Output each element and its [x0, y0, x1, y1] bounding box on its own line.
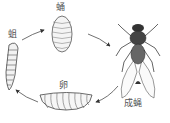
- arrow-eggs-to-larva: [16, 90, 38, 102]
- life-cycle-diagram: [0, 0, 170, 123]
- arrow-pupa-to-adult: [88, 34, 110, 46]
- arrow-larva-to-pupa: [22, 30, 44, 40]
- adult-fly-illustration: [116, 24, 160, 98]
- larva-illustration: [6, 43, 18, 90]
- arrow-adult-to-eggs: [96, 86, 118, 102]
- label-adult: 成蝇: [124, 99, 142, 108]
- label-egg: 卵: [59, 81, 68, 90]
- pupa-illustration: [52, 16, 72, 52]
- eggs-illustration: [40, 93, 92, 111]
- label-larva: 蛆: [8, 30, 17, 39]
- label-pupa: 蛹: [56, 3, 65, 12]
